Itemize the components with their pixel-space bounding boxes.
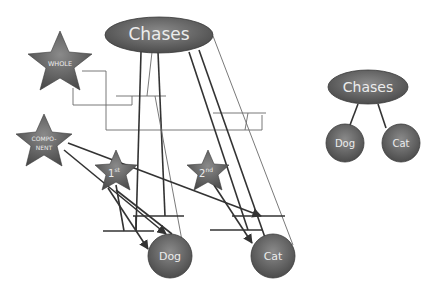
component-label-1: COMPO- — [32, 135, 57, 142]
whole-label: WHOLE — [48, 60, 72, 68]
right-tree: Chases Dog Cat — [326, 70, 420, 162]
tree-diagram: Chases WHOLE COMPO- NENT 1st 2nd Dog Cat… — [0, 0, 442, 291]
left-cat-node: Cat — [251, 234, 295, 278]
right-chases-node: Chases — [328, 70, 408, 104]
right-dog-node: Dog — [326, 124, 364, 162]
chases-connectors — [136, 36, 293, 246]
right-cat-label: Cat — [392, 138, 409, 149]
left-chases-label: Chases — [128, 24, 189, 44]
whole-connectors — [73, 71, 266, 130]
component-label-2: NENT — [36, 144, 53, 151]
left-dog-node: Dog — [148, 234, 192, 278]
star-whole: WHOLE — [28, 31, 92, 90]
star-component: COMPO- NENT — [16, 114, 72, 166]
left-cat-label: Cat — [264, 250, 283, 263]
right-chases-label: Chases — [343, 79, 393, 95]
right-dog-label: Dog — [335, 138, 355, 149]
right-cat-node: Cat — [382, 124, 420, 162]
left-dog-label: Dog — [159, 250, 181, 263]
left-chases-node: Chases — [105, 17, 213, 53]
